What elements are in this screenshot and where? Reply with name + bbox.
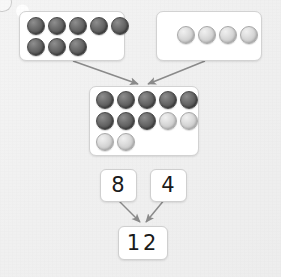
counter-dark[interactable]: [180, 91, 198, 109]
counter-row: [27, 17, 129, 35]
addend-two-value: 4: [161, 175, 175, 196]
arrow-group2-to-sum: [148, 61, 205, 84]
arrow-group1-to-sum: [73, 61, 138, 84]
second-addend-counter-grid: [177, 26, 258, 44]
counter-row: [177, 26, 258, 44]
counter-dark[interactable]: [69, 38, 87, 56]
counter-dark[interactable]: [138, 91, 156, 109]
arrow-eight-to-sum: [117, 199, 140, 222]
counter-dark[interactable]: [90, 17, 108, 35]
worksheet-canvas: 8 4 12: [0, 0, 281, 277]
counter-dark[interactable]: [117, 91, 135, 109]
counter-row: [27, 38, 129, 56]
counter-dark[interactable]: [96, 112, 114, 130]
counter-row: [96, 112, 198, 130]
counter-dark[interactable]: [69, 17, 87, 35]
counter-dark[interactable]: [117, 112, 135, 130]
counter-light[interactable]: [180, 112, 198, 130]
counter-dark[interactable]: [27, 38, 45, 56]
sum-value-box[interactable]: 12: [118, 226, 168, 260]
counter-light[interactable]: [198, 26, 216, 44]
counter-dark[interactable]: [48, 38, 66, 56]
counter-light[interactable]: [159, 112, 177, 130]
counter-light[interactable]: [240, 26, 258, 44]
addend-one-box[interactable]: 8: [100, 169, 137, 202]
corner-circle-artifact: [0, 0, 12, 12]
addend-two-box[interactable]: 4: [150, 169, 187, 202]
counter-light[interactable]: [117, 133, 135, 151]
counter-light[interactable]: [96, 133, 114, 151]
counter-dark[interactable]: [27, 17, 45, 35]
counter-dark[interactable]: [111, 17, 129, 35]
sum-counter-grid: [96, 91, 198, 151]
arrow-four-to-sum: [146, 199, 165, 222]
counter-dark[interactable]: [138, 112, 156, 130]
counter-light[interactable]: [219, 26, 237, 44]
counter-light[interactable]: [177, 26, 195, 44]
counter-dark[interactable]: [159, 91, 177, 109]
first-addend-counter-grid: [27, 17, 129, 56]
counter-dark[interactable]: [96, 91, 114, 109]
sum-value: 12: [127, 233, 160, 254]
counter-row: [96, 91, 198, 109]
counter-dark[interactable]: [48, 17, 66, 35]
addend-one-value: 8: [111, 175, 125, 196]
counter-row: [96, 133, 198, 151]
